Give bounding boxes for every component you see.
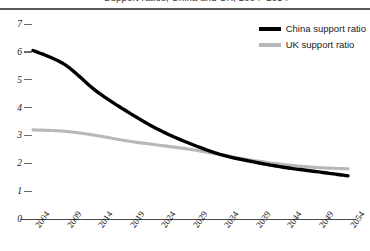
legend-swatch-uk-icon bbox=[259, 43, 281, 46]
chart-title-text: Support ratios, China and UK, 2004–2054 bbox=[104, 0, 288, 3]
legend-item-china: China support ratio bbox=[259, 22, 366, 36]
x-axis-tick-2054: 2054 bbox=[348, 224, 370, 251]
chart-title-cropped: Support ratios, China and UK, 2004–2054 bbox=[0, 0, 370, 7]
chart-container: Support ratios, China and UK, 2004–2054 … bbox=[0, 0, 370, 251]
x-axis-label: 2049 bbox=[317, 209, 336, 229]
plot-area: 7 6 5 4 3 2 1 0 2004 bbox=[0, 8, 370, 212]
x-axis-label: 2009 bbox=[65, 209, 84, 229]
uk-support-ratio-line bbox=[33, 130, 348, 169]
chart-legend: China support ratio UK support ratio bbox=[259, 22, 366, 54]
x-axis-label: 2019 bbox=[128, 209, 147, 229]
x-axis-label: 2054 bbox=[348, 209, 367, 229]
legend-swatch-china-icon bbox=[259, 27, 281, 30]
legend-label-china: China support ratio bbox=[286, 22, 366, 36]
legend-item-uk: UK support ratio bbox=[259, 38, 366, 52]
legend-label-uk: UK support ratio bbox=[286, 38, 355, 52]
x-axis-label: 2029 bbox=[191, 209, 210, 229]
china-support-ratio-line bbox=[33, 50, 348, 175]
x-axis-label: 2039 bbox=[254, 209, 273, 229]
